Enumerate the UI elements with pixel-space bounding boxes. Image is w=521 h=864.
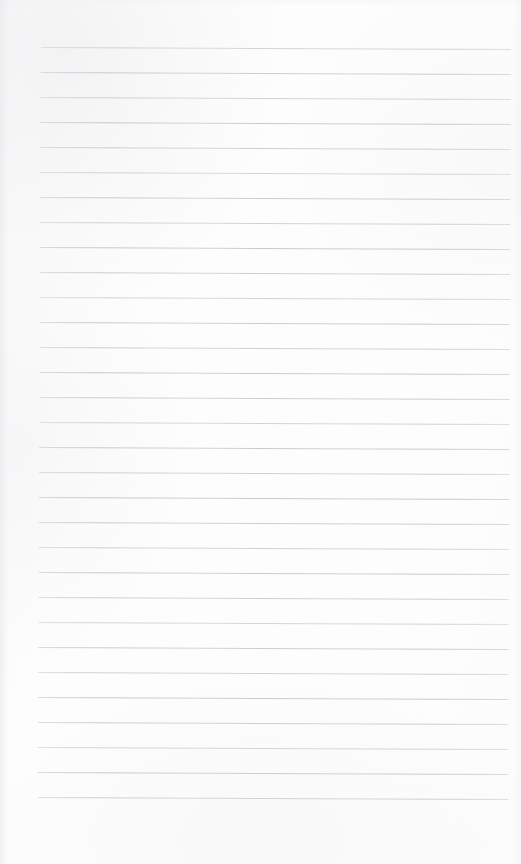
- scanned-page: [0, 0, 521, 864]
- bleed-through-artifact: [0, 838, 521, 864]
- page-footer-blank-area: [0, 802, 521, 864]
- paper-background: [0, 0, 521, 864]
